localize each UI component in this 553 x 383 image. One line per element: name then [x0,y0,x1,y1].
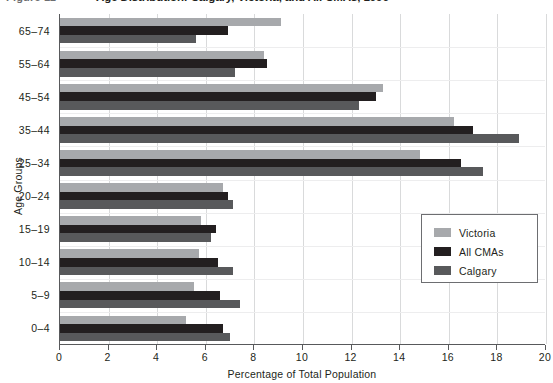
x-tickmark-20 [545,345,546,350]
group-separator [60,146,545,147]
bar-calgary-20-24 [60,200,233,209]
x-axis-label-10: 10 [282,351,322,363]
x-tickmark-2 [108,345,109,350]
x-tickmark-18 [496,345,497,350]
y-axis-tick-labels: 65–7455–6445–5435–4425–3420–2415–1910–14… [0,14,54,345]
group-separator [60,312,545,313]
bar-victoria-0-4 [60,316,186,325]
x-axis-label-14: 14 [379,351,419,363]
x-tickmark-10 [302,345,303,350]
legend-item-all-cmas[interactable]: All CMAs [434,242,537,261]
legend-label: Calgary [459,265,497,277]
x-tickmark-8 [253,345,254,350]
x-axis-tick-labels: 02468101214161820 [59,351,545,367]
gridline-20 [546,14,547,344]
chart-legend: VictoriaAll CMAsCalgary [421,214,538,283]
x-axis-label-18: 18 [476,351,516,363]
x-axis-label-16: 16 [428,351,468,363]
bar-allcmas-45-54 [60,92,376,101]
x-axis-title: Percentage of Total Population [59,368,545,380]
x-axis-label-2: 2 [88,351,128,363]
y-axis-label-55-64: 55–64 [0,58,50,70]
bar-victoria-65-74 [60,18,281,27]
bar-calgary-5-9 [60,300,240,309]
x-tickmark-12 [351,345,352,350]
bar-victoria-25-34 [60,150,420,159]
y-axis-label-20-24: 20–24 [0,190,50,202]
x-axis-label-4: 4 [136,351,176,363]
legend-swatch-victoria-icon [434,228,451,237]
group-separator [60,47,545,48]
legend-swatch-all-cmas-icon [434,247,451,256]
y-axis-label-65-74: 65–74 [0,25,50,37]
group-separator [60,113,545,114]
y-axis-label-45-54: 45–54 [0,91,50,103]
y-axis-label-0-4: 0–4 [0,322,50,334]
bar-calgary-65-74 [60,35,196,44]
x-axis-label-20: 20 [525,351,553,363]
x-axis-label-8: 8 [233,351,273,363]
x-tickmark-0 [59,345,60,350]
x-tickmark-16 [448,345,449,350]
bar-victoria-5-9 [60,282,194,291]
legend-item-calgary[interactable]: Calgary [434,261,537,280]
bar-victoria-15-19 [60,216,201,225]
x-tickmark-6 [205,345,206,350]
y-axis-label-15-19: 15–19 [0,223,50,235]
x-axis-label-6: 6 [185,351,225,363]
figure-number: Figure 11 [6,0,56,3]
bar-allcmas-25-34 [60,159,461,168]
bar-calgary-35-44 [60,134,519,143]
group-separator [60,80,545,81]
bar-calgary-45-54 [60,101,359,110]
y-axis-label-5-9: 5–9 [0,289,50,301]
figure-title-row: Figure 11 Age Distribution: Calgary, Vic… [0,0,553,7]
x-axis-label-12: 12 [331,351,371,363]
bar-calgary-0-4 [60,333,230,342]
x-axis-label-0: 0 [39,351,79,363]
x-tickmark-4 [156,345,157,350]
bar-allcmas-0-4 [60,324,223,333]
legend-label: All CMAs [459,246,504,258]
x-tickmark-14 [399,345,400,350]
y-axis-title: Age Groups [12,126,24,246]
bar-calgary-55-64 [60,68,235,77]
bar-allcmas-20-24 [60,192,228,201]
bar-victoria-35-44 [60,117,454,126]
figure-title: Age Distribution: Calgary, Victoria, and… [96,0,389,3]
legend-label: Victoria [459,227,495,239]
legend-swatch-calgary-icon [434,266,451,275]
bar-allcmas-65-74 [60,26,228,35]
bar-allcmas-5-9 [60,291,220,300]
bar-victoria-55-64 [60,51,264,60]
bar-calgary-10-14 [60,267,233,276]
bar-calgary-15-19 [60,233,211,242]
y-axis-label-35-44: 35–44 [0,124,50,136]
y-axis-label-10-14: 10–14 [0,256,50,268]
group-separator [60,180,545,181]
bar-allcmas-35-44 [60,126,473,135]
bar-victoria-45-54 [60,84,383,93]
bar-allcmas-15-19 [60,225,216,234]
bar-allcmas-55-64 [60,59,267,68]
bar-victoria-20-24 [60,183,223,192]
legend-item-victoria[interactable]: Victoria [434,223,537,242]
chart-plot-area [59,14,545,345]
bar-allcmas-10-14 [60,258,218,267]
bar-calgary-25-34 [60,167,483,176]
bar-victoria-10-14 [60,249,199,258]
y-axis-label-25-34: 25–34 [0,157,50,169]
